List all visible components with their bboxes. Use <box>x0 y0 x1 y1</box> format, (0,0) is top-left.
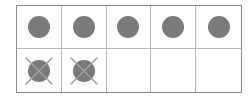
counter-dot-icon <box>208 16 230 38</box>
cross-out-icon <box>69 56 99 86</box>
frame-cell-6 <box>17 49 62 92</box>
counter-dot-icon <box>117 16 139 38</box>
frame-cell-3 <box>107 6 152 49</box>
frame-cell-8 <box>107 49 152 92</box>
counter-dot-icon <box>28 16 50 38</box>
cross-out-icon <box>24 56 54 86</box>
ten-frame <box>16 5 242 93</box>
frame-cell-1 <box>17 6 62 49</box>
frame-cell-7 <box>62 49 107 92</box>
frame-cell-5 <box>196 6 241 49</box>
frame-cell-4 <box>151 6 196 49</box>
counter-dot-icon <box>162 16 184 38</box>
counter-dot-icon <box>73 16 95 38</box>
frame-cell-10 <box>196 49 241 92</box>
frame-cell-9 <box>151 49 196 92</box>
frame-cell-2 <box>62 6 107 49</box>
